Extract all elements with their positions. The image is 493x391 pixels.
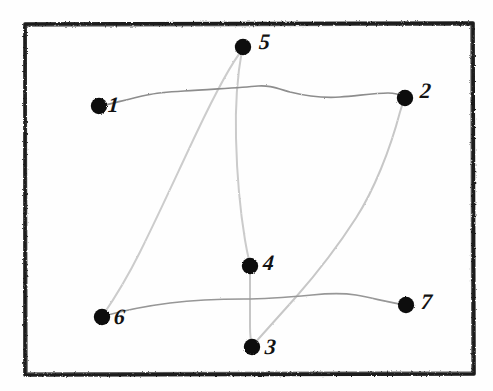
node-4[interactable] <box>242 258 258 274</box>
drawing-canvas <box>0 0 493 391</box>
node-3[interactable] <box>244 339 260 355</box>
edge-4-3 <box>250 268 252 346</box>
node-2[interactable] <box>397 90 413 106</box>
node-5[interactable] <box>235 39 251 55</box>
hand-drawn-point-graph-figure: 1 2 3 4 5 6 7 <box>0 0 493 391</box>
node-label-2: 2 <box>419 80 432 102</box>
edge-6-7 <box>104 294 406 317</box>
edge-1-2 <box>101 86 405 106</box>
node-label-3: 3 <box>264 336 277 358</box>
edge-5-4 <box>236 50 250 265</box>
node-label-5: 5 <box>258 31 271 53</box>
node-label-4: 4 <box>262 252 275 274</box>
node-7[interactable] <box>398 297 414 313</box>
node-label-7: 7 <box>420 291 433 313</box>
edge-layer <box>101 49 406 346</box>
node-6[interactable] <box>94 309 110 325</box>
edge-3-2 <box>253 99 404 345</box>
node-1[interactable] <box>91 98 107 114</box>
node-label-1: 1 <box>107 94 120 116</box>
node-label-6: 6 <box>113 306 126 328</box>
